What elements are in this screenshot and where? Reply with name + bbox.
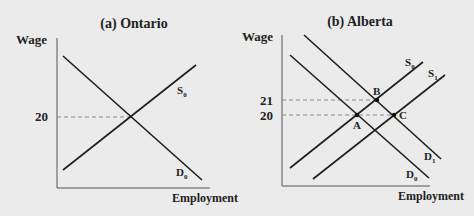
y-axis-label: Wage	[242, 29, 273, 44]
point-a-label: A	[353, 119, 361, 131]
y-tick-20: 20	[35, 109, 48, 124]
y-tick-21: 21	[260, 93, 273, 108]
point-c-marker	[392, 113, 396, 117]
x-axis-label: Employment	[172, 191, 238, 205]
d0-label: D0	[176, 166, 188, 181]
point-c-label: C	[399, 109, 407, 121]
x-axis-label: Employment	[398, 189, 464, 203]
panel-title: (a) Ontario	[100, 16, 167, 32]
point-b-label: B	[373, 85, 381, 97]
panel-ontario: (a) Ontario Wage Employment 20 S0 D0	[16, 16, 238, 205]
point-b-marker	[375, 98, 379, 102]
y-axis-label: Wage	[16, 32, 47, 47]
d0-label: D0	[406, 168, 418, 183]
labor-market-diagram: (a) Ontario Wage Employment 20 S0 D0 (b)…	[0, 0, 474, 216]
s0-label: S0	[177, 84, 187, 99]
s1-label: S1	[428, 67, 438, 82]
supply-curve-s0	[63, 65, 196, 170]
s0-label: S0	[405, 56, 415, 71]
demand-curve-d0	[63, 56, 202, 180]
panel-title: (b) Alberta	[327, 14, 393, 30]
panel-alberta: (b) Alberta Wage Employment 21 20 A B C …	[242, 14, 464, 203]
point-a-marker	[355, 113, 359, 117]
y-tick-20: 20	[260, 108, 273, 123]
